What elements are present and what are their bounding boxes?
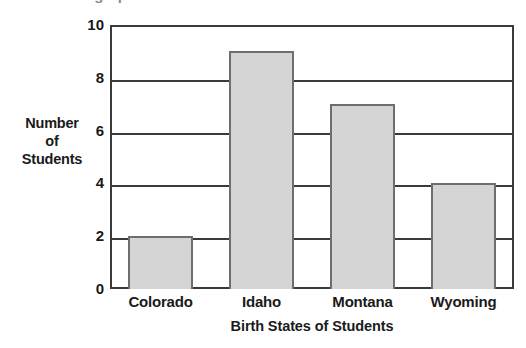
x-axis-tick-labels: ColoradoIdahoMontanaWyoming [110,292,514,314]
bar-colorado [128,236,193,289]
bar-chart-figure: Use the graph to choose the best answer.… [0,0,526,348]
x-tick-label-colorado: Colorado [110,292,211,312]
bar-wyoming [431,183,496,289]
y-tick-label-2: 2 [72,228,104,243]
cropped-header-text: Use the graph to choose the best answer. [0,0,526,7]
x-tick-label-idaho: Idaho [211,292,312,312]
y-tick-label-8: 8 [72,70,104,85]
x-axis-title: Birth States of Students [110,318,514,334]
bar-series [110,25,514,289]
y-tick-label-0: 0 [72,281,104,296]
bar-idaho [229,51,294,289]
bar-montana [330,104,395,289]
y-axis-tick-labels: 0246810 [72,25,104,289]
y-tick-label-10: 10 [72,17,104,32]
y-tick-label-6: 6 [72,123,104,138]
y-tick-label-4: 4 [72,175,104,190]
x-tick-label-wyoming: Wyoming [413,292,514,312]
x-tick-label-montana: Montana [312,292,413,312]
cropped-header-label: Use the graph to choose the best answer. [36,0,332,3]
